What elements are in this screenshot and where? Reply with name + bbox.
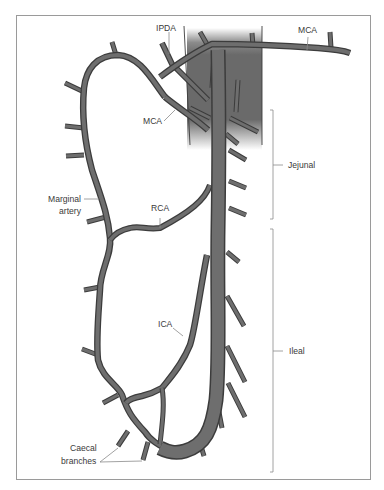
label-rca: RCA xyxy=(151,203,169,213)
label-mca-left: MCA xyxy=(143,116,162,126)
label-caecal-line2: branches xyxy=(61,456,96,466)
ileocolic-artery xyxy=(126,255,207,444)
label-marginal-line2: artery xyxy=(59,206,82,216)
label-marginal-line1: Marginal xyxy=(48,194,81,204)
ileal-bracket xyxy=(270,229,283,472)
sma-diagram: IPDA MCA MCA Marginal artery RCA ICA Jej… xyxy=(0,0,384,490)
label-mca-top: MCA xyxy=(298,25,317,35)
label-ileal: Ileal xyxy=(289,346,305,356)
vessels xyxy=(65,32,350,460)
label-caecal-line1: Caecal xyxy=(70,443,97,453)
label-ipda: IPDA xyxy=(156,23,176,33)
label-ica: ICA xyxy=(158,319,173,329)
label-jejunal: Jejunal xyxy=(288,160,315,170)
jejunal-bracket xyxy=(270,110,283,219)
